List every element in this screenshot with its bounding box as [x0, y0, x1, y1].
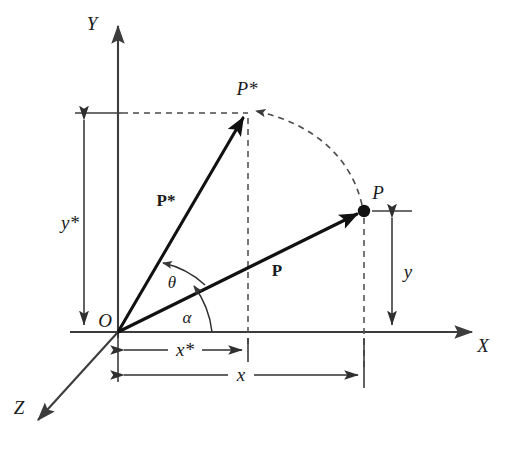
z-axis-line [38, 332, 118, 420]
vector-group [118, 118, 370, 332]
dim-x-label: x [236, 364, 246, 385]
y-axis-label: Y [87, 13, 100, 34]
dim-y-label: y [402, 261, 413, 282]
origin-label: O [98, 310, 112, 331]
vector-p-star-label: P* [157, 191, 176, 210]
vector-rotation-diagram: Y X Z O P* P P* P θ α y* y x* x [0, 0, 507, 454]
point-p-marker [358, 205, 370, 217]
point-p-label: P [371, 182, 384, 203]
rotation-arc [256, 111, 362, 205]
dim-y-star-label: y* [59, 212, 79, 233]
z-axis-label: Z [14, 397, 25, 418]
angle-theta-label: θ [168, 273, 176, 292]
angle-alpha-label: α [183, 308, 193, 327]
vector-p-label: P [272, 261, 282, 280]
x-axis-label: X [476, 335, 490, 356]
dim-x-star-label: x* [175, 339, 194, 360]
rotation-arc-group [256, 111, 362, 205]
point-p-star-label: P* [235, 78, 258, 99]
diagram-canvas: Y X Z O P* P P* P θ α y* y x* x [0, 0, 507, 454]
